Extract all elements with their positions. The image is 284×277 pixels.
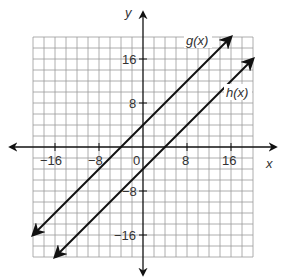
y-tick-label: −16 bbox=[114, 228, 136, 243]
label-h: h(x) bbox=[226, 85, 248, 100]
origin-label: 0 bbox=[133, 153, 140, 168]
y-tick-label: 8 bbox=[129, 96, 136, 111]
y-tick-label: 16 bbox=[122, 52, 136, 67]
label-g: g(x) bbox=[186, 33, 208, 48]
x-tick-label: 16 bbox=[222, 153, 236, 168]
x-tick-label: 8 bbox=[182, 153, 189, 168]
x-tick-label: −8 bbox=[88, 153, 103, 168]
x-axis-label: x bbox=[265, 156, 273, 171]
y-axis-label: y bbox=[124, 5, 133, 20]
y-tick-label: −8 bbox=[122, 184, 137, 199]
coordinate-plane: g(x) h(x) y x −16 −8 0 8 16 16 8 −8 −16 bbox=[0, 0, 284, 277]
x-tick-label: −16 bbox=[40, 153, 62, 168]
